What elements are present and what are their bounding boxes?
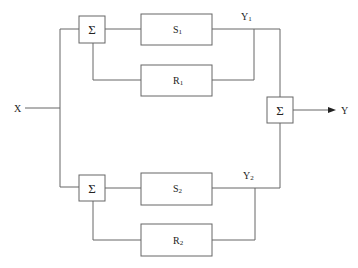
connector-lines: [25, 29, 330, 240]
sum-symbol-upper: Σ: [88, 22, 96, 37]
sum-symbol-output: Σ: [276, 103, 284, 118]
sum-symbol-lower: Σ: [88, 181, 96, 196]
output-label-y: Y: [341, 105, 348, 116]
input-label-x: X: [14, 103, 22, 114]
arrow-head-icon: [328, 107, 336, 113]
label-y2: Y2: [243, 170, 254, 182]
block-diagram: Σ Σ Σ S1 R1 S2 R2 Y1 Y2 X Y: [0, 0, 358, 268]
label-y1: Y1: [241, 11, 252, 23]
